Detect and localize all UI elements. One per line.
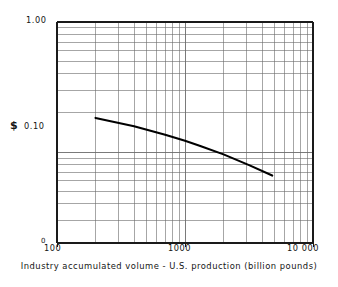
y-axis-tick-0.10: 0.10 — [24, 121, 44, 131]
y-axis-tick-1.00: 1.00 — [26, 15, 46, 25]
x-axis-tick-1000: 1000 — [168, 243, 191, 253]
x-axis-tick-100: 100 — [44, 243, 61, 253]
x-axis-tick-10000: 10 000 — [287, 243, 319, 253]
experience-curve-chart: $ 1.00 0.10 0 100 1000 10 000 Industry a… — [0, 0, 338, 287]
y-axis-title: $ — [10, 119, 18, 132]
data-curve — [96, 118, 273, 176]
x-axis-title: Industry accumulated volume - U.S. produ… — [0, 261, 338, 271]
